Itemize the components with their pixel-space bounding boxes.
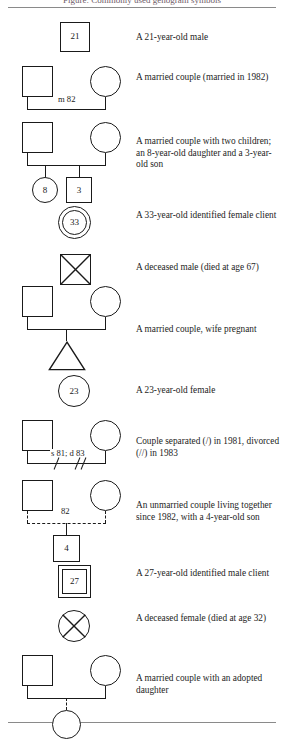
top-horizontal-rule <box>8 7 276 8</box>
father-square <box>22 655 53 686</box>
husband-descent-line <box>27 97 28 109</box>
son-sibling-line <box>66 523 67 535</box>
union-line <box>27 165 106 166</box>
wife-descent-line <box>105 97 106 109</box>
row-description: An unmarried couple living together sinc… <box>136 500 282 523</box>
row-description: A deceased female (died at age 32) <box>136 613 282 625</box>
cohabitation-year-label: 82 <box>60 507 71 516</box>
husband-descent-line <box>27 317 28 329</box>
union-line <box>27 109 106 110</box>
adopted-daughter-circle <box>52 710 81 739</box>
wife-descent-line <box>105 451 106 463</box>
row-description: A 27-year-old identified male client <box>136 568 282 580</box>
legend-row-identified-female-client: 33 A 33-year-old identified female clien… <box>0 206 284 246</box>
wife-circle <box>90 420 121 451</box>
legend-row-deceased-female: A deceased female (died at age 32) <box>0 610 284 652</box>
partner-circle-descent-line <box>105 511 106 523</box>
age-label: 27 <box>62 577 87 586</box>
wife-circle <box>90 286 121 317</box>
husband-square <box>22 66 53 97</box>
pregnancy-triangle-icon <box>48 341 86 371</box>
row-description: A married couple (married in 1982) <box>136 72 282 84</box>
age-label: 21 <box>60 32 90 41</box>
mother-circle <box>90 655 121 686</box>
daughter-age-label: 8 <box>32 186 58 195</box>
union-label: m 82 <box>57 95 76 104</box>
pregnancy-line <box>66 329 67 341</box>
legend-row-married-two-children: 8 3 A married couple with two children; … <box>0 122 284 190</box>
row-description: A 21-year-old male <box>136 32 282 44</box>
legend-row-cohabiting-couple: 82 4 An unmarried couple living together… <box>0 480 284 552</box>
separation-divorce-label: s 81; d 83 <box>50 449 86 458</box>
union-line <box>27 463 106 464</box>
legend-row-identified-male-client: 27 A 27-year-old identified male client <box>0 565 284 607</box>
legend-row-female-23: 23 A 23-year-old female <box>0 375 284 415</box>
husband-square <box>22 420 53 451</box>
partner-square-descent-line <box>27 511 28 523</box>
legend-row-adopted-daughter: A married couple with an adopted daughte… <box>0 655 284 723</box>
death-x-icon <box>58 610 90 642</box>
wife-circle <box>90 66 121 97</box>
legend-row-separated-divorced: s 81; d 83 Couple separated (/) in 1981,… <box>0 420 284 476</box>
row-description: A 33-year-old identified female client <box>136 210 282 222</box>
row-description: A married couple, wife pregnant <box>136 324 282 336</box>
partner-square <box>22 480 53 511</box>
daughter-sibling-line <box>45 165 46 177</box>
age-label: 23 <box>58 387 90 396</box>
row-description: A 23-year-old female <box>136 385 282 397</box>
husband-descent-line <box>27 451 28 463</box>
row-description: A married couple with two children; an 8… <box>136 136 282 171</box>
row-description: Couple separated (/) in 1981, divorced (… <box>136 436 282 459</box>
legend-row-pregnancy: A married couple, wife pregnant <box>0 286 284 364</box>
age-label: 33 <box>62 218 87 227</box>
figure-caption-text: Figure: Commonly used genogram symbols <box>0 0 284 5</box>
son-age-label: 4 <box>53 544 80 553</box>
adoption-line <box>66 698 67 710</box>
wife-descent-line <box>105 317 106 329</box>
father-descent-line <box>27 686 28 698</box>
row-description: A deceased male (died at age 67) <box>136 262 282 274</box>
mother-circle <box>90 122 121 153</box>
son-sibling-line <box>79 165 80 177</box>
figure-caption-clipped: Figure: Commonly used genogram symbols <box>0 0 284 6</box>
son-age-label: 3 <box>66 186 92 195</box>
partner-circle <box>90 480 121 511</box>
mother-descent-line <box>105 153 106 165</box>
father-descent-line <box>27 153 28 165</box>
mother-descent-line <box>105 686 106 698</box>
husband-square <box>22 286 53 317</box>
father-square <box>22 122 53 153</box>
death-x-icon <box>60 254 91 285</box>
legend-row-male-21: 21 A 21-year-old male <box>0 20 284 62</box>
legend-row-married-couple: m 82 A married couple (married in 1982) <box>0 66 284 116</box>
row-description: A married couple with an adopted daughte… <box>136 673 282 696</box>
